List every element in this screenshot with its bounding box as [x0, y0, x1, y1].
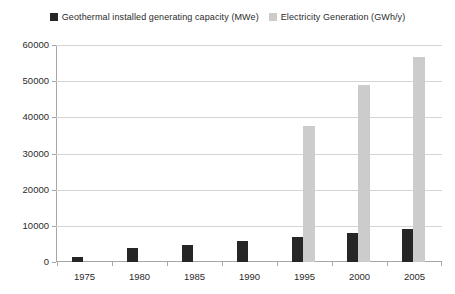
y-axis-tick-label: 30000: [23, 149, 49, 159]
legend-entry-geothermal-capacity: Geothermal installed generating capacity…: [50, 12, 259, 22]
bar-group-1985: [167, 45, 222, 262]
legend-swatch-geothermal-capacity: [50, 13, 58, 21]
x-axis-tick-2005: 2005: [387, 262, 442, 292]
bar-group-1980: [112, 45, 167, 262]
x-axis-tick-1990: 1990: [222, 262, 277, 292]
chart-legend: Geothermal installed generating capacity…: [0, 12, 455, 22]
bar-group-1995: [277, 45, 332, 262]
bar-2005-series-1: [413, 57, 424, 262]
x-axis-tick-label: 1995: [277, 271, 332, 282]
x-axis-tick-mark: [112, 262, 113, 266]
x-axis-tick-label: 1990: [222, 271, 277, 282]
x-axis-tick-mark: [332, 262, 333, 266]
bar-1995-series-0: [292, 237, 303, 262]
plot-area: 0100002000030000400005000060000: [56, 45, 442, 262]
x-axis-tick-mark: [387, 262, 388, 266]
y-axis-tick-mark: [52, 154, 56, 155]
bar-1980-series-0: [127, 248, 138, 262]
y-axis-tick-mark: [52, 45, 56, 46]
y-axis-tick-mark: [52, 81, 56, 82]
x-axis-tick-label: 1980: [112, 271, 167, 282]
x-axis-tick-label: 2000: [332, 271, 387, 282]
bar-2000-series-0: [347, 233, 358, 262]
y-axis-tick-label: 0: [44, 257, 49, 267]
y-axis-tick-mark: [52, 262, 56, 263]
y-axis-tick-label: 50000: [23, 76, 49, 86]
x-axis-tick-mark: [222, 262, 223, 266]
bar-1985-series-0: [182, 245, 193, 262]
bar-2005-series-0: [402, 229, 413, 262]
x-axis-tick-1975: 1975: [57, 262, 112, 292]
x-axis-tick-mark: [57, 262, 58, 266]
bar-group-2000: [332, 45, 387, 262]
bar-group-1990: [222, 45, 277, 262]
legend-entry-electricity-generation: Electricity Generation (GWh/y): [269, 12, 406, 22]
legend-swatch-electricity-generation: [269, 13, 277, 21]
x-axis-tick-label: 1985: [167, 271, 222, 282]
y-axis-tick-mark: [52, 190, 56, 191]
y-axis-tick-label: 10000: [23, 221, 49, 231]
x-axis-tick-1995: 1995: [277, 262, 332, 292]
x-axis-tick-labels: 1975198019851990199520002005: [57, 262, 442, 292]
bar-group-1975: [57, 45, 112, 262]
x-axis-tick-mark: [277, 262, 278, 266]
y-axis-tick-label: 60000: [23, 40, 49, 50]
x-axis-tick-1980: 1980: [112, 262, 167, 292]
x-axis-tick-label: 1975: [57, 271, 112, 282]
bar-1995-series-1: [303, 126, 314, 262]
bar-1990-series-0: [237, 241, 248, 262]
chart-container: Geothermal installed generating capacity…: [0, 0, 455, 294]
x-axis-tick-mark: [167, 262, 168, 266]
x-axis-tick-label: 2005: [387, 271, 442, 282]
bar-2000-series-1: [358, 85, 369, 262]
x-axis-tick-2000: 2000: [332, 262, 387, 292]
bars-layer: [57, 45, 442, 262]
legend-label-electricity-generation: Electricity Generation (GWh/y): [281, 12, 406, 22]
bar-group-2005: [387, 45, 442, 262]
y-axis-tick-label: 20000: [23, 185, 49, 195]
y-axis-tick-label: 40000: [23, 112, 49, 122]
x-axis-tick-mark: [441, 262, 442, 266]
x-axis-tick-1985: 1985: [167, 262, 222, 292]
y-axis-tick-mark: [52, 226, 56, 227]
y-axis-tick-mark: [52, 117, 56, 118]
legend-label-geothermal-capacity: Geothermal installed generating capacity…: [62, 12, 259, 22]
